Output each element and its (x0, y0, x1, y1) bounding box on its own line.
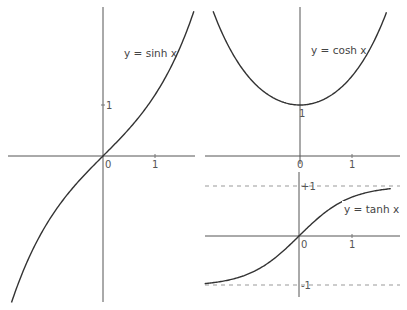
tanh-function-label: y = tanh x (344, 203, 399, 215)
cosh-origin-label: 0 (297, 159, 303, 170)
cosh-function-label: y = cosh x (311, 44, 367, 56)
cosh-panel: 0 1 1 y = cosh x (205, 7, 400, 170)
tanh-upper-tick-label: +1 (301, 181, 316, 192)
sinh-y-tick-label: 1 (106, 100, 112, 111)
sinh-panel: 0 1 1 y = sinh x (8, 7, 195, 303)
cosh-y-tick-label: 1 (299, 108, 305, 119)
sinh-origin-label: 0 (105, 159, 111, 170)
sinh-x-tick-label: 1 (152, 159, 158, 170)
cosh-x-tick-label: 1 (349, 159, 355, 170)
hyperbolic-functions-figure: 0 1 1 y = sinh x 0 1 1 y = cosh x 0 1 +1… (0, 0, 407, 310)
tanh-lower-tick-label: -1 (301, 280, 311, 291)
tanh-panel: 0 1 +1 -1 y = tanh x (205, 172, 400, 297)
sinh-function-label: y = sinh x (124, 47, 177, 59)
tanh-x-tick-label: 1 (349, 239, 355, 250)
tanh-origin-label: 0 (301, 239, 307, 250)
